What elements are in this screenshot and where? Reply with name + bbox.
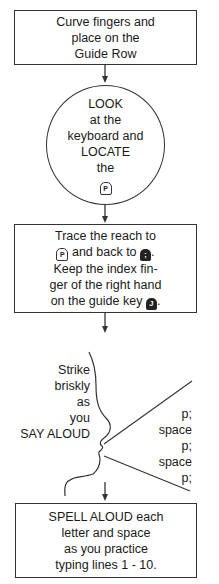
instruction-line: SAY ALOUD	[20, 426, 90, 442]
step-3-text: and back to	[72, 245, 137, 259]
step-5-box: SPELL ALOUD each letter and space as you…	[15, 503, 197, 578]
arrow-1-to-2	[102, 64, 108, 83]
arrow-2-to-3	[102, 205, 108, 223]
step-3-text: Trace the reach to	[55, 228, 156, 244]
step-1-text: Guide Row	[75, 46, 137, 62]
step-1-box: Curve fingers and place on the Guide Row	[14, 10, 197, 65]
step-4-instruction: Strike briskly as you SAY ALOUD	[20, 362, 90, 442]
p-key-icon: P	[56, 248, 68, 261]
step-2-text: LOCATE	[81, 144, 130, 160]
spoken-line: p;	[159, 438, 192, 454]
spoken-line: p;	[159, 406, 192, 422]
arrow-4-to-5	[102, 482, 108, 501]
spoken-line: space	[159, 422, 192, 438]
semicolon-key-icon: ;	[140, 249, 151, 261]
step-3-text: on the guide key	[51, 294, 143, 308]
step-2-text: keyboard and	[68, 128, 144, 144]
step-4-spoken-sequence: p; space p; space p;	[159, 406, 192, 486]
spoken-line: space	[159, 454, 192, 470]
step-1-text: place on the	[71, 30, 139, 46]
step-3-box: Trace the reach to P and back to ;. Keep…	[14, 224, 197, 313]
step-2-text: at the	[90, 112, 121, 128]
step-3-text: ger of the right hand	[50, 277, 162, 293]
p-key-icon: P	[100, 182, 112, 195]
step-5-text: SPELL ALOUD each	[49, 509, 164, 525]
instruction-line: you	[20, 410, 90, 426]
spoken-line: p;	[159, 470, 192, 486]
step-2-text: the	[97, 160, 114, 176]
instruction-line: as	[20, 394, 90, 410]
arrow-3-to-4	[102, 312, 108, 333]
step-3-punct: .	[157, 294, 160, 308]
step-5-text: as you practice	[64, 541, 148, 557]
j-key-icon: J	[146, 298, 157, 310]
step-2-circle: LOOK at the keyboard and LOCATE the P	[46, 85, 165, 205]
instruction-line: Strike	[20, 362, 90, 378]
step-5-text: letter and space	[62, 525, 151, 541]
step-1-text: Curve fingers and	[56, 14, 155, 30]
step-3-punct: .	[151, 245, 154, 259]
step-3-text: Keep the index fin-	[53, 261, 157, 277]
instruction-line: briskly	[20, 378, 90, 394]
step-5-text: typing lines 1 - 10.	[55, 557, 156, 573]
step-2-text: LOOK	[88, 96, 123, 112]
